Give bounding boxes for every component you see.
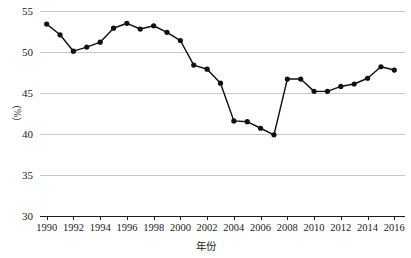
x-tick-label: 2002: [197, 222, 218, 233]
x-tick-mark: [368, 216, 369, 220]
x-tick-mark: [180, 216, 181, 220]
y-tick-label: 45: [22, 87, 33, 99]
data-point: [44, 22, 49, 27]
x-tick-mark: [234, 216, 235, 220]
data-point: [338, 84, 343, 89]
data-point: [218, 81, 223, 86]
data-point: [271, 132, 276, 137]
x-tick-mark: [207, 216, 208, 220]
x-tick-mark: [73, 216, 74, 220]
data-point: [98, 40, 103, 45]
data-point: [285, 76, 290, 81]
data-series: [40, 11, 405, 216]
plot-area: [40, 11, 405, 216]
data-point: [124, 21, 129, 26]
x-tick-mark: [127, 216, 128, 220]
x-tick-label: 2012: [330, 222, 351, 233]
data-point: [138, 26, 143, 31]
data-point: [378, 64, 383, 69]
y-axis-tick-labels: 303540455055: [0, 0, 38, 258]
x-tick-mark: [47, 216, 48, 220]
x-tick-label: 2016: [384, 222, 405, 233]
data-point: [258, 126, 263, 131]
x-tick-mark: [100, 216, 101, 220]
x-tick-mark: [394, 216, 395, 220]
data-point: [311, 89, 316, 94]
data-point: [392, 67, 397, 72]
x-tick-label: 2006: [250, 222, 271, 233]
y-tick-label: 40: [22, 128, 33, 140]
x-tick-label: 2008: [277, 222, 298, 233]
data-point: [84, 44, 89, 49]
data-point: [111, 26, 116, 31]
x-tick-label: 1998: [143, 222, 164, 233]
y-tick-label: 55: [22, 5, 33, 17]
data-point: [191, 63, 196, 68]
x-tick-label: 1992: [63, 222, 84, 233]
data-point: [245, 119, 250, 124]
x-tick-mark: [314, 216, 315, 220]
x-axis-ticks: [40, 216, 405, 221]
data-point: [205, 67, 210, 72]
x-tick-mark: [261, 216, 262, 220]
data-point: [365, 76, 370, 81]
x-tick-label: 1990: [36, 222, 57, 233]
x-tick-mark: [287, 216, 288, 220]
y-tick-label: 35: [22, 169, 33, 181]
y-tick-label: 30: [22, 210, 33, 222]
data-point: [57, 32, 62, 37]
x-tick-mark: [154, 216, 155, 220]
data-point: [71, 49, 76, 54]
data-point: [178, 38, 183, 43]
x-axis-tick-labels: 1990199219941996199820002002200420062008…: [0, 222, 411, 238]
data-point: [151, 23, 156, 28]
x-tick-label: 2004: [223, 222, 244, 233]
y-tick-label: 50: [22, 46, 33, 58]
data-point: [352, 81, 357, 86]
data-point: [298, 76, 303, 81]
data-point: [231, 118, 236, 123]
data-point: [164, 30, 169, 35]
x-tick-mark: [341, 216, 342, 220]
x-tick-label: 2014: [357, 222, 378, 233]
x-tick-label: 1994: [90, 222, 111, 233]
data-point: [325, 89, 330, 94]
x-tick-label: 2000: [170, 222, 191, 233]
x-tick-label: 2010: [304, 222, 325, 233]
x-tick-label: 1996: [116, 222, 137, 233]
x-axis-title: 年份: [0, 238, 411, 253]
line-chart: （%） 303540455055 19901992199419961998200…: [0, 0, 411, 258]
